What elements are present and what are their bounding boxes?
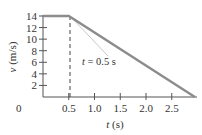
velocity-time-chart: 2468101214 0.51.01.52.02.5 0 t = 0.5 s v…: [0, 0, 202, 135]
y-tick-label: 6: [32, 56, 38, 68]
y-axis-label: v (m/s): [6, 41, 19, 72]
y-tick-label: 10: [26, 33, 38, 45]
origin-label: 0: [16, 102, 22, 114]
x-tick-label: 1.5: [113, 102, 127, 114]
tangent-line: [70, 16, 108, 56]
x-tick-label: 0.5: [62, 102, 76, 114]
y-tick-label: 4: [32, 68, 38, 80]
y-tick-label: 12: [26, 22, 37, 34]
x-tick-label: 2.0: [139, 102, 153, 114]
x-ticks: 0.51.01.52.02.5: [62, 93, 179, 114]
velocity-series-line: [43, 16, 195, 97]
x-tick-label: 2.5: [165, 102, 179, 114]
x-axis-label: t (s): [106, 118, 124, 131]
y-tick-label: 8: [32, 45, 38, 57]
y-tick-label: 14: [26, 10, 38, 22]
y-ticks: 2468101214: [26, 10, 47, 91]
y-tick-label: 2: [32, 79, 38, 91]
x-tick-label: 1.0: [88, 102, 102, 114]
annotation-label: t = 0.5 s: [82, 56, 116, 67]
